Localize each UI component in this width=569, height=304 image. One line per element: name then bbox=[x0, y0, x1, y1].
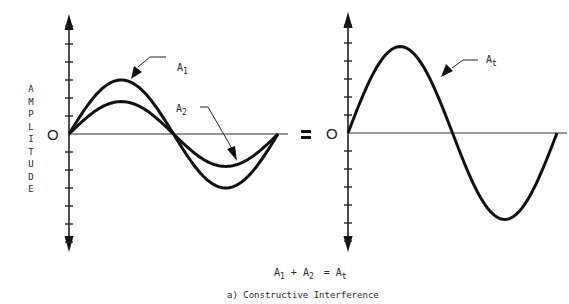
y-axis-label-letter: L bbox=[28, 122, 33, 132]
left-y-axis-up-arrow bbox=[65, 14, 74, 30]
right-y-axis-down-arrow bbox=[344, 236, 353, 252]
left-y-axis-down-arrow bbox=[65, 236, 74, 252]
y-axis-label-letter: E bbox=[28, 184, 33, 194]
a1-label: A1 bbox=[177, 62, 188, 76]
y-axis-label-letter: D bbox=[28, 172, 33, 182]
interference-diagram: O AMPLITUDE A1 A2 O At bbox=[0, 0, 569, 304]
y-axis-label-letter: T bbox=[28, 147, 34, 157]
a1-leader-line bbox=[138, 57, 166, 67]
y-axis-label-letter: M bbox=[28, 97, 34, 107]
right-panel: O At bbox=[326, 12, 567, 252]
y-axis-label-amplitude: AMPLITUDE bbox=[28, 84, 34, 194]
y-axis-label-letter: U bbox=[28, 159, 33, 169]
a2-leader-line bbox=[200, 107, 234, 152]
y-axis-label-letter: I bbox=[28, 134, 33, 144]
at-leader-line bbox=[452, 60, 478, 68]
figure-caption: a) Constructive Interference bbox=[227, 290, 379, 300]
at-leader-arrowhead bbox=[441, 64, 453, 77]
y-axis-label-letter: P bbox=[28, 109, 34, 119]
a2-label: A2 bbox=[176, 103, 187, 117]
left-panel: O AMPLITUDE A1 A2 bbox=[28, 14, 288, 252]
a2-leader-arrowhead bbox=[227, 146, 237, 161]
y-axis-label-letter: A bbox=[28, 84, 34, 94]
left-origin-label: O bbox=[47, 126, 59, 143]
right-origin-label: O bbox=[326, 125, 338, 142]
a1-leader-arrowhead bbox=[131, 66, 142, 79]
equation: A1+A2=At bbox=[274, 267, 347, 281]
equals-sign bbox=[301, 130, 311, 139]
at-label: At bbox=[486, 54, 497, 68]
